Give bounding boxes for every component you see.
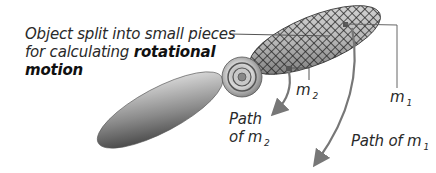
caption-line-1: Object split into small pieces [25,25,235,43]
path-m1-label: Path of m1 [351,132,429,152]
caption-line-2: for calculating rotational [25,43,235,61]
m2-label: m2 [296,81,318,101]
m1-label: m1 [390,88,412,108]
caption-bold-rotational: rotational [134,43,216,61]
caption-label: Object split into small pieces for calcu… [25,25,235,79]
path-arrow-m2 [277,72,290,110]
path-m2-label: Path of m2 [229,110,270,148]
caption-line-3: motion [25,61,235,79]
